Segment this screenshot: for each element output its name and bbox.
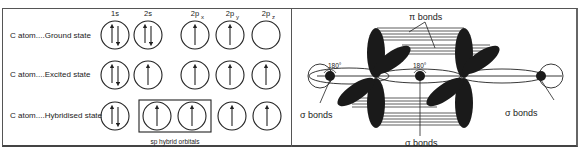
row-label-hybridised: C atom....Hybridised state — [10, 111, 103, 120]
svg-text:2p: 2p — [191, 9, 199, 18]
hydrogen-nucleus-right — [536, 71, 546, 81]
sigma-label-right: σ bonds — [505, 108, 538, 118]
bonding-diagram: π bonds 180° 180° σ bonds σ bonds σ bond… — [292, 8, 581, 147]
svg-text:y: y — [236, 14, 239, 20]
col-2py: 2p y — [226, 9, 239, 20]
orbital-diagram: 1s 2s 2p x 2p y 2p z C atom....Ground st… — [2, 8, 291, 147]
pi-leader-lines — [409, 22, 435, 48]
orbital-diagram-panel: 1s 2s 2p x 2p y 2p z C atom....Ground st… — [2, 8, 291, 147]
svg-text:x: x — [201, 14, 204, 20]
svg-text:2p: 2p — [226, 9, 234, 18]
hydrogen-nucleus-left — [325, 71, 335, 81]
bonding-diagram-panel: π bonds 180° 180° σ bonds σ bonds σ bond… — [291, 8, 581, 147]
col-1s: 1s — [111, 9, 119, 18]
carbon-bond-center — [415, 71, 425, 81]
row-ground-orbitals — [101, 21, 280, 49]
row-label-excited: C atom....Excited state — [10, 70, 91, 79]
svg-text:z: z — [272, 14, 275, 20]
sigma-label-center: σ bonds — [405, 138, 438, 147]
pi-bonds-label: π bonds — [409, 12, 443, 22]
orbital-circle — [134, 21, 162, 49]
column-headers: 1s 2s 2p x 2p y 2p z — [111, 9, 275, 20]
col-2s: 2s — [144, 9, 152, 18]
sigma-bond-axis — [308, 64, 563, 88]
col-2px: 2p x — [191, 9, 204, 20]
angle-label-center: 180° — [413, 62, 427, 69]
col-2pz: 2p z — [262, 9, 275, 20]
sp-hybrid-label: sp hybrid orbitals — [150, 138, 200, 146]
orbital-circle — [101, 21, 129, 49]
angle-label-left: 180° — [328, 62, 342, 69]
row-hybridised-orbitals — [101, 100, 281, 132]
svg-text:2p: 2p — [262, 9, 270, 18]
row-excited-orbitals — [101, 61, 280, 89]
orbital-circle-empty — [252, 21, 280, 49]
sigma-label-left: σ bonds — [300, 110, 333, 120]
row-label-ground: C atom....Ground state — [10, 31, 91, 40]
